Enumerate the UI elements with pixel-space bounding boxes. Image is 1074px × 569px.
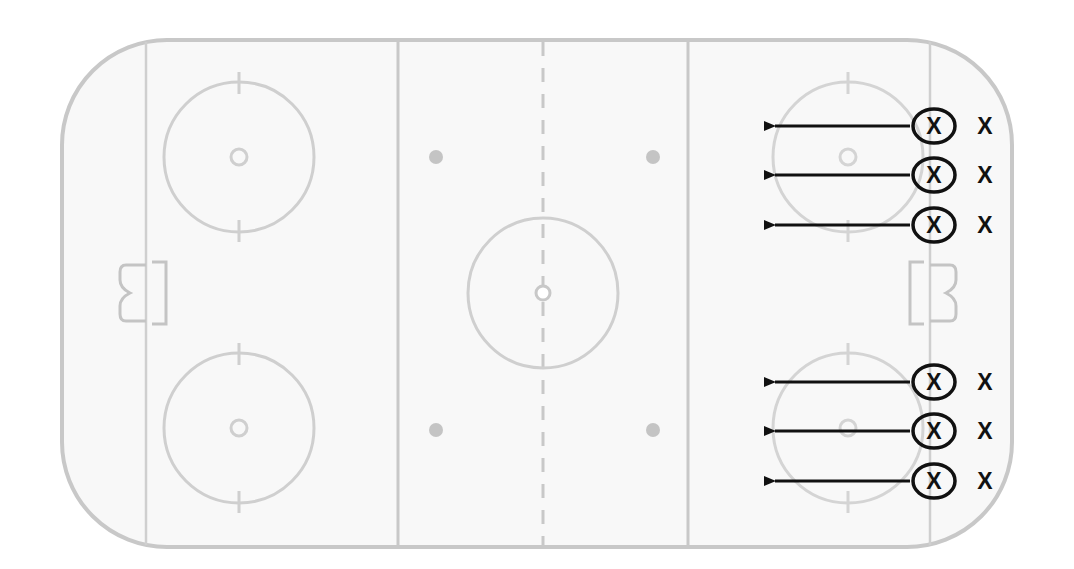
neutral-dot — [429, 150, 443, 164]
circled-player-label: X — [926, 113, 942, 139]
circled-player-label: X — [926, 162, 942, 188]
player-label: X — [977, 113, 993, 139]
circled-player-label: X — [926, 418, 942, 444]
hockey-rink-diagram: XXXXXXXXXXXX — [0, 0, 1074, 569]
player-label: X — [977, 418, 993, 444]
player-label: X — [977, 162, 993, 188]
circled-player-label: X — [926, 212, 942, 238]
neutral-dot — [429, 423, 443, 437]
circled-player-label: X — [926, 468, 942, 494]
player-label: X — [977, 369, 993, 395]
player-label: X — [977, 212, 993, 238]
center-faceoff-dot — [536, 286, 550, 300]
neutral-dot — [646, 150, 660, 164]
player-label: X — [977, 468, 993, 494]
circled-player-label: X — [926, 369, 942, 395]
neutral-dot — [646, 423, 660, 437]
